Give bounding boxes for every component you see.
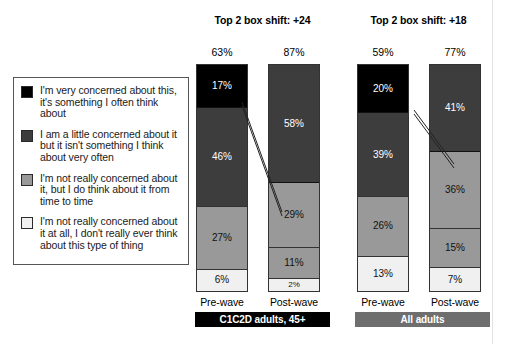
bar-segment-label: 20% xyxy=(373,84,393,94)
legend-item: I'm not really concerned about it at all… xyxy=(21,216,182,251)
bar-segment: 27% xyxy=(197,206,247,268)
bar-total-label: 77% xyxy=(429,46,481,58)
bar-total-label: 63% xyxy=(196,46,248,58)
legend-swatch-icon xyxy=(21,217,33,229)
bar-segment: 15% xyxy=(430,228,480,267)
legend-item: I am a little concerned about it but it … xyxy=(21,129,182,164)
plot-area-right: 59%20%39%26%13%Pre-wave77%41%36%15%7%Pos… xyxy=(330,0,507,344)
bar-segment: 58% xyxy=(269,65,319,182)
chart-page: I'm very concerned about this, it's some… xyxy=(0,0,507,344)
bar-segment: 7% xyxy=(430,267,480,291)
audience-banner-left: C1C2D adults, 45+ xyxy=(195,312,330,327)
legend-item-label: I'm not really concerned about it at all… xyxy=(40,216,182,251)
legend-item-label: I am a little concerned about it but it … xyxy=(40,129,182,164)
bar-segment: 46% xyxy=(197,107,247,206)
bar-segment: 13% xyxy=(358,256,408,291)
bar-segment: 2% xyxy=(269,278,319,291)
stacked-bar: 41%36%15%7% xyxy=(429,64,481,292)
bar-segment: 29% xyxy=(269,182,319,247)
bar-segment: 41% xyxy=(430,65,480,151)
legend-swatch-icon xyxy=(21,86,33,98)
chart-panel-right: Top 2 box shift: +18 59%20%39%26%13%Pre-… xyxy=(330,0,507,344)
bar-segment-label: 36% xyxy=(445,185,465,195)
bar-segment-label: 13% xyxy=(373,269,393,279)
bar-segment: 36% xyxy=(430,151,480,229)
legend-item: I'm not really concerned about it, but I… xyxy=(21,173,182,208)
bar-segment: 17% xyxy=(197,65,247,107)
audience-banner-right: All adults xyxy=(355,312,490,327)
bar-axis-label: Post-wave xyxy=(260,296,328,308)
legend-swatch-icon xyxy=(21,174,33,186)
bar-segment: 26% xyxy=(358,196,408,256)
bar-axis-label: Pre-wave xyxy=(349,296,417,308)
bar-segment-label: 46% xyxy=(212,152,232,162)
bar-segment-label: 29% xyxy=(284,210,304,220)
chart-panel-left: Top 2 box shift: +24 63%17%46%27%6%Pre-w… xyxy=(190,0,335,344)
bar-segment-label: 15% xyxy=(445,243,465,253)
bar-segment: 6% xyxy=(197,269,247,291)
stacked-bar: 17%46%27%6% xyxy=(196,64,248,292)
bar-segment: 39% xyxy=(358,112,408,196)
bar-segment-label: 58% xyxy=(284,119,304,129)
bar-axis-label: Post-wave xyxy=(421,296,489,308)
bar-total-label: 59% xyxy=(357,46,409,58)
bar-segment-label: 27% xyxy=(212,233,232,243)
plot-area-left: 63%17%46%27%6%Pre-wave87%58%29%11%2%Post… xyxy=(190,0,335,344)
legend-item-label: I'm very concerned about this, it's some… xyxy=(40,85,182,120)
legend-item: I'm very concerned about this, it's some… xyxy=(21,85,182,120)
bar-segment: 20% xyxy=(358,65,408,112)
bar-segment-label: 11% xyxy=(284,258,303,268)
bar-segment-label: 41% xyxy=(445,103,465,113)
page-edge-rule xyxy=(492,0,493,344)
legend-swatch-icon xyxy=(21,130,33,142)
stacked-bar: 58%29%11%2% xyxy=(268,64,320,292)
bar-segment-label: 2% xyxy=(288,281,300,289)
legend-item-label: I'm not really concerned about it, but I… xyxy=(40,173,182,208)
bar-segment-label: 6% xyxy=(215,275,229,285)
bar-total-label: 87% xyxy=(268,46,320,58)
bar-segment-label: 26% xyxy=(373,221,393,231)
bar-axis-label: Pre-wave xyxy=(188,296,256,308)
bar-segment-label: 39% xyxy=(373,150,393,160)
bar-segment-label: 7% xyxy=(448,275,462,285)
bar-segment: 11% xyxy=(269,247,319,278)
legend: I'm very concerned about this, it's some… xyxy=(13,77,189,265)
stacked-bar: 20%39%26%13% xyxy=(357,64,409,292)
bar-segment-label: 17% xyxy=(212,81,232,91)
